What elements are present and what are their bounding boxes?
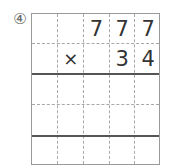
multiplication-grid: 7 7 7 × 3 4: [31, 13, 160, 165]
digit-cell: 4: [135, 44, 161, 74]
sum-line: [32, 135, 159, 137]
digit-cell: [32, 44, 58, 74]
problem-number: ④: [11, 10, 29, 28]
digit-cell: [84, 44, 110, 74]
digit-cell: [32, 14, 58, 44]
digit-cell: 7: [109, 14, 135, 44]
digit-cell: 3: [109, 44, 135, 74]
row-divider: [32, 104, 159, 105]
digit-cell: [58, 14, 84, 44]
digit-cell: 7: [84, 14, 110, 44]
multiply-sign: ×: [58, 44, 84, 74]
digit-cell: 7: [135, 14, 161, 44]
